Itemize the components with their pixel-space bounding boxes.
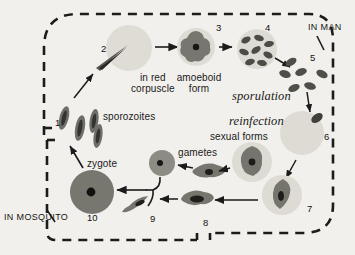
arrow-5-to-6 xyxy=(307,92,310,112)
stage-number-7: 7 xyxy=(307,203,312,214)
stage-number-6: 6 xyxy=(324,131,329,142)
label-amoeboid-line2: form xyxy=(189,83,209,94)
arrow-gamete-to-round xyxy=(178,165,193,168)
fusion-bracket xyxy=(146,177,160,206)
stage-7-sexual-form xyxy=(262,175,302,215)
label-in-red-corpuscle: in red corpuscle xyxy=(131,73,175,94)
label-zygote: zygote xyxy=(87,159,117,170)
stage-8-gamete xyxy=(181,190,214,205)
stage-number-2: 2 xyxy=(101,43,106,54)
arrow-6-to-7 xyxy=(286,160,296,178)
label-sporulation: sporulation xyxy=(232,90,291,103)
label-reinfection: reinfection xyxy=(229,115,284,128)
label-amoeboid-line1: amoeboid xyxy=(177,72,222,83)
stage-number-9: 9 xyxy=(150,213,155,224)
label-in-red-line2: corpuscle xyxy=(131,83,175,94)
stage-number-5: 5 xyxy=(310,52,315,63)
stage-number-8: 8 xyxy=(203,217,208,228)
stage-number-10: 10 xyxy=(87,212,98,223)
diagram-canvas: IN MAN IN MOSQUITO in red corpuscle amoe… xyxy=(0,0,355,255)
region-label-in-mosquito: IN MOSQUITO xyxy=(4,212,68,222)
label-sporozoites: sporozoites xyxy=(103,112,155,123)
stage-6-reinfected-corpuscle xyxy=(280,111,325,155)
stage-4-schizont xyxy=(237,29,277,69)
border-corner-ticks xyxy=(44,128,210,240)
label-amoeboid-form: amoeboid form xyxy=(173,73,225,94)
stage-number-1: 1 xyxy=(55,117,60,128)
stage-number-4: 4 xyxy=(265,22,270,33)
sexual-form-cell xyxy=(232,142,272,182)
arrow-1-to-2 xyxy=(74,74,93,98)
stage-1-sporozoites xyxy=(57,105,104,148)
in-man-leader xyxy=(317,36,324,50)
label-in-red-line1: in red xyxy=(140,72,166,83)
stage-9-gamete xyxy=(122,196,148,212)
gamete-round xyxy=(149,150,175,176)
stage-10-zygote xyxy=(70,170,114,214)
region-label-in-man: IN MAN xyxy=(308,22,342,32)
label-gametes: gametes xyxy=(178,148,217,159)
arrow-10-to-1 xyxy=(70,146,83,168)
stage-3-amoeboid-form xyxy=(177,28,215,66)
stage-number-3: 3 xyxy=(216,22,221,33)
label-sexual-forms: sexual forms xyxy=(210,132,268,143)
